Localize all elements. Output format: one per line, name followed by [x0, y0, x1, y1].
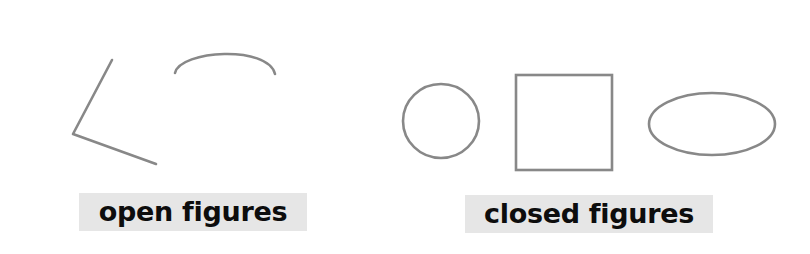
- closed-square-figure: [516, 75, 612, 170]
- closed-circle-figure: [403, 84, 479, 158]
- closed-ellipse-figure: [649, 93, 775, 155]
- open-arc-figure: [175, 54, 275, 74]
- open-figures-label: open figures: [79, 193, 307, 231]
- closed-figures-label: closed figures: [465, 195, 713, 233]
- figures-diagram: open figures closed figures: [0, 0, 810, 254]
- open-angle-figure: [73, 60, 156, 164]
